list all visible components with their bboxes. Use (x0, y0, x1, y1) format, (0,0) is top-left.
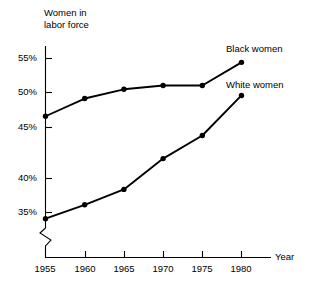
series-black-women (43, 60, 244, 119)
x-tick-label-1965: 1965 (107, 263, 141, 274)
y-axis-break-zigzag (40, 222, 51, 258)
series-label-black-women: Black women (226, 43, 283, 54)
data-point (200, 83, 205, 88)
y-tick-label-45: 45% (7, 121, 37, 132)
series-layer (43, 60, 244, 222)
data-point (43, 216, 48, 221)
x-tick-label-1960: 1960 (68, 263, 102, 274)
data-point (121, 187, 126, 192)
series-white-women (43, 93, 244, 222)
y-tick-label-55: 55% (7, 52, 37, 63)
data-point (239, 93, 244, 98)
series-line (46, 95, 242, 218)
data-point (200, 133, 205, 138)
y-axis-title-line1: Women in (44, 7, 87, 18)
series-label-white-women: White women (226, 79, 284, 90)
y-tick-label-50: 50% (7, 86, 37, 97)
data-point (239, 60, 244, 65)
chart-figure: Women inlabor force Year 55% 50% 45% 40%… (0, 0, 309, 293)
data-point (82, 202, 87, 207)
x-tick-label-1955: 1955 (28, 263, 62, 274)
y-axis-title: Women inlabor force (44, 7, 89, 30)
data-point (121, 87, 126, 92)
data-point (82, 96, 87, 101)
y-tick-label-35: 35% (7, 206, 37, 217)
y-axis-title-line2: labor force (44, 19, 89, 30)
data-point (160, 156, 165, 161)
x-axis-title: Year (275, 251, 294, 263)
y-tick-label-40: 40% (7, 172, 37, 183)
x-tick-label-1975: 1975 (185, 263, 219, 274)
data-point (160, 83, 165, 88)
x-tick-label-1970: 1970 (146, 263, 180, 274)
series-line (46, 62, 242, 116)
data-point (43, 114, 48, 119)
x-tick-label-1980: 1980 (224, 263, 258, 274)
